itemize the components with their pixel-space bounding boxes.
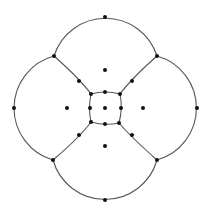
graph-diagram	[0, 0, 207, 212]
spoke-ul	[54, 56, 91, 94]
vertex-square-top	[103, 90, 107, 94]
vertex-square-tl	[89, 92, 93, 96]
vertex-center	[103, 106, 107, 110]
vertex-square-bottom	[103, 122, 107, 126]
vertex-bottom	[103, 198, 107, 202]
vertex-top	[103, 15, 107, 19]
vertex-square-bl	[89, 120, 93, 124]
vertex-face-bottom	[103, 144, 107, 148]
vertex-spoke-mid-ll	[77, 133, 81, 137]
vertex-junction-ul	[52, 54, 56, 58]
vertex-square-right	[119, 106, 123, 110]
arc-left	[14, 56, 54, 160]
vertex-face-left	[65, 106, 69, 110]
vertex-spoke-mid-ur	[130, 79, 134, 83]
vertex-junction-ll	[51, 158, 55, 162]
vertex-square-left	[88, 106, 92, 110]
vertices	[12, 15, 199, 202]
vertex-right	[195, 106, 199, 110]
vertex-spoke-mid-lr	[130, 133, 134, 137]
vertex-junction-lr	[155, 158, 159, 162]
vertex-junction-ur	[155, 54, 159, 58]
arc-right	[157, 56, 196, 160]
spoke-ll	[53, 122, 91, 160]
vertex-left	[12, 106, 16, 110]
vertex-face-top	[103, 68, 107, 72]
vertex-face-right	[141, 106, 145, 110]
arc-top	[54, 18, 157, 56]
vertex-square-tr	[118, 92, 122, 96]
spoke-lr	[119, 123, 157, 160]
vertex-square-br	[117, 121, 121, 125]
arc-bottom	[53, 160, 157, 199]
vertex-spoke-mid-ul	[77, 79, 81, 83]
spoke-ur	[120, 56, 157, 94]
